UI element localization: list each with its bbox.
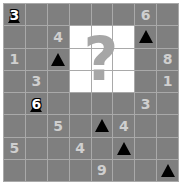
grid-cell[interactable]: 9 [92,160,113,181]
grid-cell[interactable] [4,115,25,136]
cell-number: 6 [141,7,151,23]
cell-number: 1 [163,73,173,89]
grid-cell[interactable] [135,160,156,181]
grid-cell[interactable] [48,4,69,25]
grid-cell[interactable] [26,160,47,181]
grid-cell[interactable] [4,26,25,47]
grid-cell[interactable] [26,115,47,136]
grid-cell[interactable]: 1 [4,49,25,70]
grid-cell[interactable]: 5 [4,138,25,159]
grid-cell[interactable] [4,160,25,181]
grid-cell[interactable] [135,49,156,70]
grid-cell[interactable] [26,4,47,25]
grid-cell[interactable] [48,49,69,70]
grid-cell[interactable]: 6 [26,93,47,114]
cell-number: 9 [97,162,107,178]
grid-cell[interactable] [113,4,134,25]
grid-cell[interactable] [113,93,134,114]
grid-cell[interactable] [135,138,156,159]
grid-cell[interactable] [92,138,113,159]
grid-cell[interactable] [70,93,91,114]
grid-cell[interactable] [157,26,178,47]
grid-cell[interactable] [135,71,156,92]
grid-cell[interactable] [157,4,178,25]
grid-cell[interactable] [48,93,69,114]
cell-number: 3 [31,73,41,89]
grid-cell[interactable]: 3 [26,71,47,92]
grid-cell[interactable] [157,138,178,159]
mine-triangle-icon [139,30,153,43]
grid-cell[interactable] [157,160,178,181]
cell-number: 4 [119,118,129,134]
grid-cell[interactable] [113,138,134,159]
revealed-cell[interactable] [92,71,113,92]
mine-triangle-icon [51,53,65,66]
grid-cell[interactable]: 4 [48,26,69,47]
grid-cell[interactable] [157,93,178,114]
revealed-cell[interactable] [70,49,91,70]
cell-number: 6 [31,96,41,112]
grid-cell[interactable] [92,4,113,25]
grid-cell[interactable]: 4 [70,138,91,159]
grid-cell[interactable] [48,71,69,92]
grid-cell[interactable] [26,49,47,70]
grid-cell[interactable] [157,115,178,136]
revealed-cell[interactable] [113,26,134,47]
cell-number: 1 [10,51,20,67]
revealed-cell[interactable] [70,26,91,47]
cell-number: 5 [10,140,20,156]
grid-cell[interactable]: 3 [135,93,156,114]
grid-cell[interactable] [48,160,69,181]
grid-cell[interactable] [135,115,156,136]
revealed-cell[interactable] [113,71,134,92]
revealed-cell[interactable] [70,71,91,92]
grid-cell[interactable]: 4 [113,115,134,136]
cell-number: 3 [10,7,20,23]
grid-cell[interactable] [70,4,91,25]
revealed-cell[interactable] [92,26,113,47]
mine-triangle-icon [117,142,131,155]
grid-cell[interactable] [70,115,91,136]
mine-triangle-icon [161,164,175,177]
revealed-cell[interactable] [92,49,113,70]
cell-number: 5 [53,118,63,134]
grid-cell[interactable] [92,115,113,136]
grid-cell[interactable] [4,93,25,114]
grid-cell[interactable]: 6 [135,4,156,25]
cell-number: 3 [141,96,151,112]
cell-number: 4 [53,29,63,45]
grid-cell[interactable] [92,93,113,114]
cell-number: 8 [163,51,173,67]
grid-cell[interactable] [135,26,156,47]
cell-number: 4 [75,140,85,156]
mine-triangle-icon [95,119,109,132]
grid-cell[interactable]: 3 [4,4,25,25]
grid-cell[interactable] [70,160,91,181]
grid-cell[interactable] [26,26,47,47]
grid-cell[interactable] [48,138,69,159]
puzzle-board: 36418316354549 [3,3,179,182]
grid-cell[interactable] [113,160,134,181]
grid-cell[interactable]: 5 [48,115,69,136]
grid-cell[interactable]: 1 [157,71,178,92]
grid-cell[interactable] [4,71,25,92]
revealed-cell[interactable] [113,49,134,70]
grid-cell[interactable] [26,138,47,159]
grid-cell[interactable]: 8 [157,49,178,70]
